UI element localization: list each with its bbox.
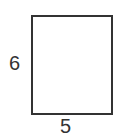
width-label: 5 <box>60 116 71 136</box>
height-label: 6 <box>9 53 20 73</box>
rectangle-shape <box>31 15 113 115</box>
